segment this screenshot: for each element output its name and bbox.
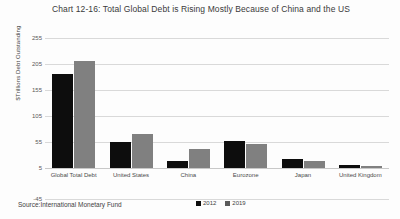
y-axis-tick-label: 5 xyxy=(20,165,42,171)
bar-group xyxy=(52,38,95,168)
bar-2012-japan[interactable] xyxy=(282,159,303,168)
gridline xyxy=(45,168,389,169)
bar-2019-united-kingdom[interactable] xyxy=(361,166,382,168)
bar-2012-china[interactable] xyxy=(167,161,188,168)
gridline xyxy=(45,90,389,91)
gridline xyxy=(45,64,389,65)
bar-group xyxy=(224,38,267,168)
y-axis-tick-label: 105 xyxy=(20,113,42,119)
bar-2019-global-total-debt[interactable] xyxy=(74,61,95,168)
legend-item-2012[interactable]: 2012 xyxy=(196,200,216,206)
bar-group xyxy=(339,38,382,168)
chart-container: Chart 12-16: Total Global Debt is Rising… xyxy=(0,0,400,219)
legend-label: 2012 xyxy=(203,200,216,206)
x-axis-label: United Kingdom xyxy=(332,172,389,179)
plot-area xyxy=(45,38,389,168)
y-axis-tick-label: 255 xyxy=(20,35,42,41)
legend-swatch-icon xyxy=(196,201,201,206)
chart-title: Chart 12-16: Total Global Debt is Rising… xyxy=(46,3,356,15)
bar-2019-united-states[interactable] xyxy=(132,134,153,168)
bar-2012-global-total-debt[interactable] xyxy=(52,74,73,168)
y-axis-tick-label: 155 xyxy=(20,87,42,93)
bar-group xyxy=(110,38,153,168)
bar-2019-japan[interactable] xyxy=(304,161,325,168)
x-axis-label: Global Total Debt xyxy=(45,172,102,179)
x-axis-label: Eurozone xyxy=(217,172,274,179)
gridline xyxy=(45,142,389,143)
legend-label: 2019 xyxy=(232,200,245,206)
bar-group xyxy=(167,38,210,168)
x-axis-label: China xyxy=(160,172,217,179)
legend-item-2019[interactable]: 2019 xyxy=(225,200,245,206)
source-note: Source:International Monetary Fund xyxy=(18,201,122,208)
gridline xyxy=(45,116,389,117)
x-axis-label: Japan xyxy=(274,172,331,179)
bar-2019-eurozone[interactable] xyxy=(246,144,267,168)
bar-2012-eurozone[interactable] xyxy=(224,141,245,168)
y-axis-tick-label: 55 xyxy=(20,139,42,145)
y-axis-tick-label: 205 xyxy=(20,61,42,67)
x-axis-label: United States xyxy=(102,172,159,179)
gridline xyxy=(45,38,389,39)
bar-2019-china[interactable] xyxy=(189,149,210,168)
bar-2012-united-kingdom[interactable] xyxy=(339,165,360,168)
chart-legend: 20122019 xyxy=(196,200,246,206)
bar-group xyxy=(282,38,325,168)
bar-2012-united-states[interactable] xyxy=(110,142,131,168)
legend-swatch-icon xyxy=(225,201,230,206)
